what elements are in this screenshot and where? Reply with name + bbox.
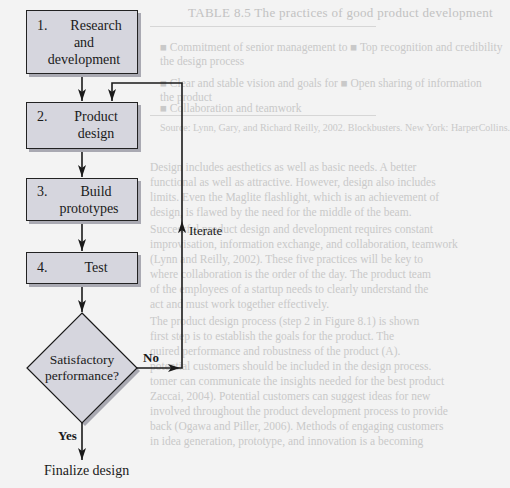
- edge-label-yes: Yes: [58, 428, 77, 444]
- decision-label: Satisfactory performance?: [27, 352, 137, 384]
- edge-label-no: No: [143, 350, 159, 366]
- step-number: 2.: [37, 108, 48, 125]
- step-product-design: 2. Product design: [26, 102, 138, 149]
- step-number: 3.: [37, 183, 48, 200]
- step-label: Research: [61, 17, 131, 34]
- step-label: and: [37, 34, 131, 51]
- step-label: development: [37, 51, 131, 68]
- step-label: Product: [61, 108, 131, 125]
- decision-label-line: performance?: [27, 368, 137, 384]
- step-number: 4.: [37, 259, 48, 276]
- step-label: prototypes: [47, 200, 131, 217]
- step-label: Build: [61, 183, 131, 200]
- step-number: 1.: [37, 17, 48, 34]
- step-label: Test: [61, 259, 131, 276]
- edge-label-iterate: Iterate: [189, 223, 222, 239]
- step-research-and-development: 1. Research and development: [26, 10, 138, 74]
- step-label: design: [61, 125, 131, 142]
- end-finalize-design: Finalize design: [44, 463, 129, 479]
- step-test: 4. Test: [26, 252, 138, 284]
- decision-label-line: Satisfactory: [27, 352, 137, 368]
- step-build-prototypes: 3. Build prototypes: [26, 178, 138, 221]
